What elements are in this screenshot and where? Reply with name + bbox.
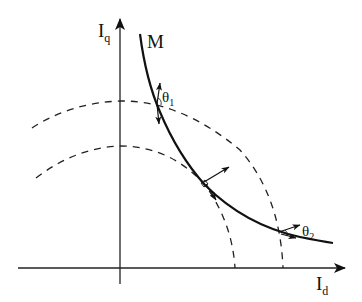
- diagram-canvas: Iq M θ1 θ2 Id: [0, 0, 362, 302]
- inner-dashed-arc: [36, 146, 235, 268]
- outer-dashed-arc: [32, 101, 283, 268]
- curve-m: [140, 34, 333, 243]
- theta1-label: θ1: [162, 89, 174, 108]
- theta1-vectors: [157, 83, 161, 124]
- iq-label: Iq: [98, 20, 110, 45]
- curve-m-label: M: [147, 31, 164, 52]
- id-label: Id: [316, 273, 328, 298]
